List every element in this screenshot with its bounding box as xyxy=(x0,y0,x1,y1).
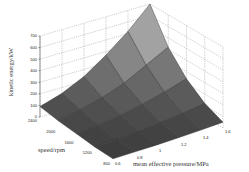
z-tick-label: 600 xyxy=(30,45,37,50)
z-tick-label: 700 xyxy=(30,33,37,38)
mep-tick-label: 1 xyxy=(159,148,162,153)
z-axis-label: kinetic energy/kW xyxy=(7,47,14,96)
speed-tick-label: 1600 xyxy=(65,140,75,145)
mep-tick-label: 1.2 xyxy=(181,142,187,147)
z-tick-label: 500 xyxy=(30,57,37,62)
speed-tick-label: 2400 xyxy=(28,118,38,123)
y-axis-label: speed/rpm xyxy=(38,146,65,153)
surface-plot xyxy=(40,4,223,159)
z-tick-label: 200 xyxy=(30,91,37,96)
x-axis-label: mean effective pressure/MPa xyxy=(133,160,209,167)
mep-tick-label: 1.6 xyxy=(225,129,231,134)
speed-tick-label: 2000 xyxy=(46,129,56,134)
z-tick-label: 400 xyxy=(30,68,37,73)
mep-tick-label: 1.4 xyxy=(203,135,209,140)
z-tick-label: 300 xyxy=(30,80,37,85)
mep-tick-label: 0.6 xyxy=(115,161,121,166)
axes xyxy=(39,36,41,117)
speed-tick-label: 1200 xyxy=(83,150,93,155)
mep-tick-label: 0.8 xyxy=(137,155,143,160)
z-tick-label: 100 xyxy=(30,103,37,108)
speed-tick-label: 800 xyxy=(103,161,110,166)
surface-chart: 0100200300400500600700800120016002000240… xyxy=(0,0,249,172)
